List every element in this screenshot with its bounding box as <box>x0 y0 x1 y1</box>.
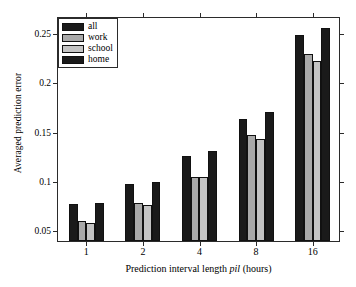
legend-item-work: work <box>62 32 113 43</box>
y-axis-tick-right <box>339 133 344 134</box>
legend-label: school <box>88 44 113 54</box>
y-axis-tick-label: 0.1 <box>39 177 51 187</box>
x-axis-tick-top <box>256 13 257 18</box>
bar-work-4 <box>191 177 200 241</box>
y-axis-tick <box>53 231 58 232</box>
legend-swatch-school <box>62 45 84 53</box>
bar-work-16 <box>304 54 313 241</box>
bar-all-2 <box>125 184 134 241</box>
legend-swatch-all <box>62 23 84 31</box>
legend-swatch-work <box>62 34 84 42</box>
x-axis-title-part1: Prediction interval length <box>125 263 229 274</box>
x-axis-tick-top <box>143 13 144 18</box>
bar-school-8 <box>256 139 265 241</box>
y-axis-tick <box>53 182 58 183</box>
bar-school-1 <box>86 223 95 241</box>
y-axis-tick <box>53 133 58 134</box>
x-axis-tick-label: 4 <box>197 246 202 257</box>
bar-school-16 <box>313 61 322 241</box>
y-axis-tick <box>53 83 58 84</box>
legend-swatch-home <box>62 56 84 64</box>
bar-home-1 <box>95 203 104 241</box>
bar-home-8 <box>265 112 274 241</box>
y-axis-tick-label: 0.15 <box>34 128 51 138</box>
x-axis-tick-label: 2 <box>140 246 145 257</box>
legend-label: all <box>88 22 98 32</box>
y-axis-tick-label: 0.25 <box>34 29 51 39</box>
y-axis-tick-right <box>339 182 344 183</box>
bar-chart-figure: Averaged prediction error 0.050.10.150.2… <box>0 0 356 287</box>
bar-group <box>171 18 228 241</box>
bar-all-4 <box>182 156 191 241</box>
x-axis-tick-label: 16 <box>308 246 318 257</box>
x-axis-tick-top <box>313 13 314 18</box>
x-axis-title: Prediction interval length pil (hours) <box>57 263 340 274</box>
legend-item-school: school <box>62 43 113 54</box>
y-axis-tick-label: 0.05 <box>34 226 51 236</box>
x-axis-tick-label: 1 <box>84 246 89 257</box>
bar-work-1 <box>78 221 87 241</box>
bar-group <box>115 18 172 241</box>
legend-item-home: home <box>62 54 113 65</box>
bar-home-4 <box>208 151 217 241</box>
bar-all-8 <box>239 119 248 241</box>
legend-label: home <box>88 55 109 65</box>
x-axis-tick-label: 8 <box>254 246 259 257</box>
bar-all-1 <box>69 204 78 241</box>
bar-all-16 <box>295 35 304 241</box>
bar-work-2 <box>134 203 143 241</box>
bar-school-4 <box>199 177 208 241</box>
bar-group <box>228 18 285 241</box>
x-axis-title-part2: (hours) <box>240 263 271 274</box>
x-axis-title-italic: pil <box>230 263 241 274</box>
bar-group <box>284 18 341 241</box>
y-axis-tick-right <box>339 34 344 35</box>
bar-school-2 <box>143 205 152 241</box>
y-axis-title: Averaged prediction error <box>13 33 23 213</box>
legend-item-all: all <box>62 21 113 32</box>
y-axis-tick-right <box>339 83 344 84</box>
bar-home-2 <box>152 182 161 241</box>
chart-legend: allworkschoolhome <box>58 18 118 68</box>
bar-home-16 <box>321 28 330 241</box>
bar-work-8 <box>247 135 256 241</box>
x-axis-tick-top <box>200 13 201 18</box>
y-axis-tick-label: 0.2 <box>39 78 51 88</box>
legend-label: work <box>88 33 108 43</box>
y-axis-tick-right <box>339 231 344 232</box>
